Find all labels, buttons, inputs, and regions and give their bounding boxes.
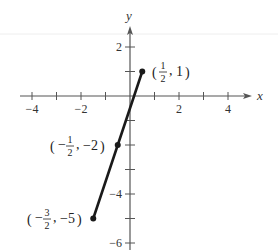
comma: , bbox=[169, 63, 173, 78]
paren-close: ) bbox=[77, 212, 82, 228]
paren-close: ) bbox=[185, 65, 190, 81]
frac-den: 2 bbox=[161, 73, 166, 84]
paren-open: ( bbox=[152, 65, 157, 81]
x-axis-label: x bbox=[256, 88, 263, 103]
point-label: (−32,−5) bbox=[27, 207, 82, 231]
x-tick-label: −2 bbox=[75, 102, 88, 116]
y-value: −2 bbox=[83, 138, 98, 153]
frac-den: 2 bbox=[45, 220, 50, 231]
x-tick-label: −4 bbox=[26, 102, 39, 116]
point-labels: (12,1)(−12,−2)(−32,−5) bbox=[27, 60, 190, 231]
frac-num: 1 bbox=[161, 60, 166, 71]
sign: − bbox=[58, 137, 66, 152]
y-tick-label: 2 bbox=[116, 40, 122, 54]
point-label: (12,1) bbox=[152, 60, 190, 84]
data-point bbox=[90, 216, 96, 222]
y-value: 1 bbox=[176, 64, 183, 79]
data-point bbox=[139, 69, 145, 75]
frac-num: 1 bbox=[68, 134, 73, 145]
comma: , bbox=[53, 210, 57, 225]
sign: − bbox=[35, 210, 43, 225]
y-axis-label: y bbox=[124, 8, 132, 23]
paren-close: ) bbox=[100, 139, 105, 155]
paren-open: ( bbox=[50, 139, 55, 155]
y-value: −5 bbox=[60, 211, 75, 226]
frac-num: 3 bbox=[45, 207, 50, 218]
frac-den: 2 bbox=[68, 147, 73, 158]
point-label: (−12,−2) bbox=[50, 134, 105, 158]
y-tick-label: −4 bbox=[109, 187, 122, 201]
data-point bbox=[115, 142, 121, 148]
x-tick-label: 4 bbox=[225, 102, 231, 116]
paren-open: ( bbox=[27, 212, 32, 228]
x-tick-label: 2 bbox=[176, 102, 182, 116]
comma: , bbox=[76, 137, 80, 152]
y-tick-label: −6 bbox=[109, 236, 122, 250]
chart-canvas: xy −4−2242−4−6 (12,1)(−12,−2)(−32,−5) bbox=[0, 0, 278, 250]
